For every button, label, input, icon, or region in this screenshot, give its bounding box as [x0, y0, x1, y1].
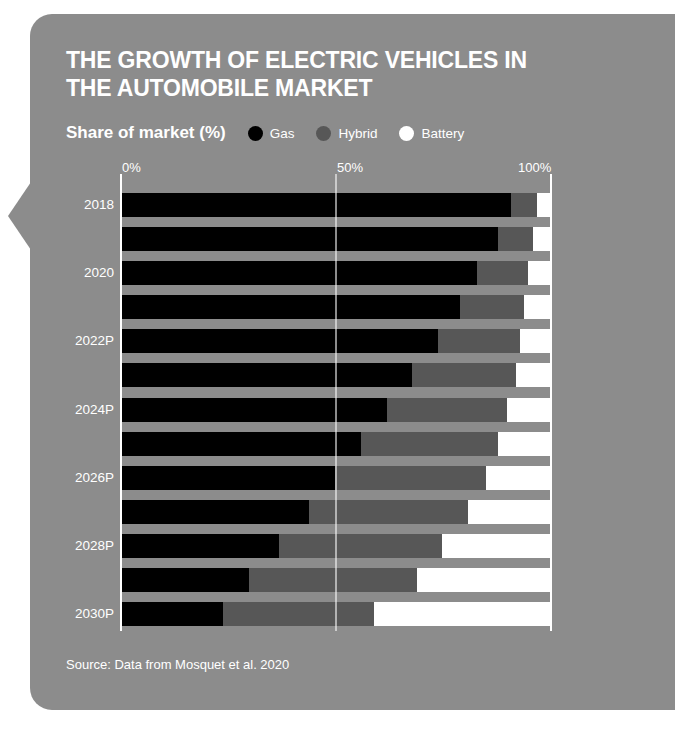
bar-segment-hybrid [412, 363, 515, 387]
y-axis-label-2026P: 2026P [44, 470, 114, 485]
legend-item-battery: Battery [399, 126, 464, 141]
source-note: Source: Data from Mosquet et al. 2020 [66, 657, 289, 672]
bar-segment-hybrid [279, 534, 442, 558]
bar-segment-hybrid [335, 466, 486, 490]
bar-segment-battery [533, 227, 550, 251]
bar-segment-hybrid [460, 295, 525, 319]
callout-pointer [8, 182, 31, 250]
bar-segment-battery [468, 500, 550, 524]
bar-segment-gas [120, 432, 361, 456]
legend-label-battery: Battery [421, 126, 464, 141]
bar-segment-battery [442, 534, 550, 558]
bar-segment-battery [498, 432, 550, 456]
bar-segment-battery [486, 466, 551, 490]
x-tick-label: 0% [122, 160, 141, 175]
bar-segment-gas [120, 329, 438, 353]
bar-segment-hybrid [223, 602, 374, 626]
bar-segment-battery [507, 398, 550, 422]
y-axis-label-2022P: 2022P [44, 333, 114, 348]
battery-color-dot [399, 126, 414, 141]
bar-segment-battery [528, 261, 550, 285]
bar-segment-battery [520, 329, 550, 353]
legend: Share of market (%) Gas Hybrid Battery [66, 122, 464, 144]
bar-segment-hybrid [309, 500, 468, 524]
bar-segment-gas [120, 295, 460, 319]
bar-segment-hybrid [511, 193, 537, 217]
axis-gridline [120, 174, 122, 631]
legend-item-hybrid: Hybrid [316, 126, 377, 141]
bar-segment-gas [120, 466, 335, 490]
y-axis-label-2030P: 2030P [44, 606, 114, 621]
bar-segment-battery [417, 568, 550, 592]
bar-segment-gas [120, 602, 223, 626]
bar-segment-gas [120, 534, 279, 558]
bar-segment-battery [374, 602, 550, 626]
bar-segment-hybrid [249, 568, 417, 592]
bar-segment-gas [120, 227, 498, 251]
hybrid-color-dot [316, 126, 331, 141]
bar-segment-hybrid [387, 398, 507, 422]
axis-gridline [335, 174, 337, 631]
bar-segment-battery [537, 193, 550, 217]
bar-segment-hybrid [477, 261, 529, 285]
legend-label-gas: Gas [270, 126, 295, 141]
y-axis-label-2018: 2018 [44, 197, 114, 212]
legend-label-hybrid: Hybrid [338, 126, 377, 141]
gas-color-dot [248, 126, 263, 141]
axis-gridline [550, 174, 552, 631]
bar-segment-hybrid [438, 329, 520, 353]
legend-item-gas: Gas [248, 126, 295, 141]
x-tick-label: 100% [518, 160, 551, 175]
chart-title: THE GROWTH OF ELECTRIC VEHICLES IN THE A… [66, 46, 556, 102]
bar-segment-gas [120, 193, 511, 217]
y-axis-label-2024P: 2024P [44, 402, 114, 417]
bar-segment-gas [120, 398, 387, 422]
bar-segment-gas [120, 500, 309, 524]
bar-segment-gas [120, 568, 249, 592]
y-axis-label-2020: 2020 [44, 265, 114, 280]
bar-segment-hybrid [498, 227, 532, 251]
bar-segment-battery [516, 363, 550, 387]
y-axis-label-2028P: 2028P [44, 538, 114, 553]
bar-segment-gas [120, 363, 412, 387]
bar-segment-gas [120, 261, 477, 285]
x-tick-label: 50% [337, 160, 363, 175]
chart-subtitle: Share of market (%) [66, 123, 226, 143]
bar-segment-battery [524, 295, 550, 319]
bar-segment-hybrid [361, 432, 499, 456]
